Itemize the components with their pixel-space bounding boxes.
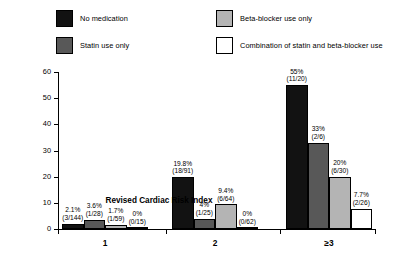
bar-fraction: (6/64) [217, 195, 234, 203]
bar-value-label: 7.7%(2/26) [353, 191, 370, 207]
y-axis-tick-label: 30 [43, 147, 51, 154]
bar-percent: 20% [331, 159, 348, 167]
y-axis-tick [54, 98, 58, 99]
x-axis-tick [58, 229, 59, 234]
bar-value-label: 20%(6/30) [331, 159, 348, 175]
legend-label-no-medication: No medication [80, 15, 128, 22]
bar [62, 224, 84, 229]
bar-fraction: (18/91) [172, 167, 193, 175]
bar-percent: 9.4% [217, 187, 234, 195]
bar-percent: 33% [311, 125, 325, 133]
bar-percent: 2.1% [62, 206, 83, 214]
bar-percent: 1.7% [107, 207, 124, 215]
legend-item-combination: Combination of statin and beta-blocker u… [216, 37, 383, 54]
bar-percent: 0% [129, 210, 146, 218]
legend-item-beta-blocker-use-only: Beta-blocker use only [216, 10, 312, 27]
bar-value-label: 0%(0/15) [129, 210, 146, 226]
legend-item-no-medication: No medication [56, 10, 128, 27]
chart-legend: No medication Statin use only Beta-block… [56, 10, 386, 58]
legend-swatch-beta-blocker-use-only [216, 10, 233, 27]
bar [286, 85, 308, 229]
y-axis-tick [54, 177, 58, 178]
bar [105, 225, 127, 229]
bar-percent: 0% [239, 210, 256, 218]
bar-value-label: 9.4%(6/64) [217, 187, 234, 203]
bar-value-label: 3.6%(1/28) [86, 202, 103, 218]
bar-value-label: 33%(2/6) [311, 125, 325, 141]
bar-percent: 55% [287, 68, 307, 76]
x-axis-tick [375, 229, 376, 234]
bar-fraction: (1/59) [107, 215, 124, 223]
x-axis-tick [166, 229, 167, 234]
y-axis-tick-label: 40 [43, 121, 51, 128]
legend-swatch-statin-use-only [56, 37, 73, 54]
plot-area: 0102030405060 2.1%(3/144)3.6%(1/28)1.7%(… [58, 72, 376, 230]
bar [194, 219, 216, 229]
bar-fraction: (3/144) [62, 214, 83, 222]
bar [237, 227, 259, 229]
bar-value-label: 2.1%(3/144) [62, 206, 83, 222]
x-axis-title: Revised Cardiac Risk Index [106, 196, 213, 205]
legend-label-combination: Combination of statin and beta-blocker u… [240, 42, 383, 49]
bar-percent: 19.8% [172, 160, 193, 168]
legend-label-beta-blocker-use-only: Beta-blocker use only [240, 15, 312, 22]
y-axis-tick [54, 151, 58, 152]
bar [308, 143, 330, 229]
bar [127, 227, 149, 229]
x-axis-tick [280, 229, 281, 234]
bar-fraction: (11/20) [287, 75, 307, 83]
legend-label-statin-use-only: Statin use only [80, 42, 129, 49]
bar-percent: 7.7% [353, 191, 370, 199]
y-axis-tick-label: 20 [43, 173, 51, 180]
bar-fraction: (1/25) [196, 209, 213, 217]
bar [84, 220, 106, 229]
x-axis-group-label: ≥3 [324, 238, 333, 248]
bar-value-label: 1.7%(1/59) [107, 207, 124, 223]
y-axis-tick [54, 72, 58, 73]
chart-figure: No medication Statin use only Beta-block… [0, 0, 395, 269]
y-axis-tick [54, 124, 58, 125]
bar-value-label: 19.8%(18/91) [172, 160, 193, 176]
bar-fraction: (6/30) [331, 167, 348, 175]
x-axis-line [58, 229, 376, 230]
y-axis-tick-label: 60 [43, 68, 51, 75]
y-axis-tick-label: 0 [47, 225, 51, 232]
x-axis-group-label: 2 [213, 238, 218, 248]
bar [215, 204, 237, 229]
bar-fraction: (2/6) [311, 133, 325, 141]
bar-value-label: 55%(11/20) [287, 68, 307, 84]
bar-fraction: (0/62) [239, 218, 256, 226]
y-axis-tick-label: 50 [43, 94, 51, 101]
y-axis-line [58, 72, 59, 230]
y-axis-tick-label: 10 [43, 199, 51, 206]
x-axis-group-label: 1 [103, 238, 108, 248]
bar-fraction: (1/28) [86, 210, 103, 218]
bar-fraction: (0/15) [129, 218, 146, 226]
y-axis-tick [54, 203, 58, 204]
bar-percent: 3.6% [86, 202, 103, 210]
bar [329, 177, 351, 229]
legend-item-statin-use-only: Statin use only [56, 37, 129, 54]
legend-swatch-combination [216, 37, 233, 54]
bar-fraction: (2/26) [353, 199, 370, 207]
legend-swatch-no-medication [56, 10, 73, 27]
bar-value-label: 0%(0/62) [239, 210, 256, 226]
bar [351, 209, 373, 229]
